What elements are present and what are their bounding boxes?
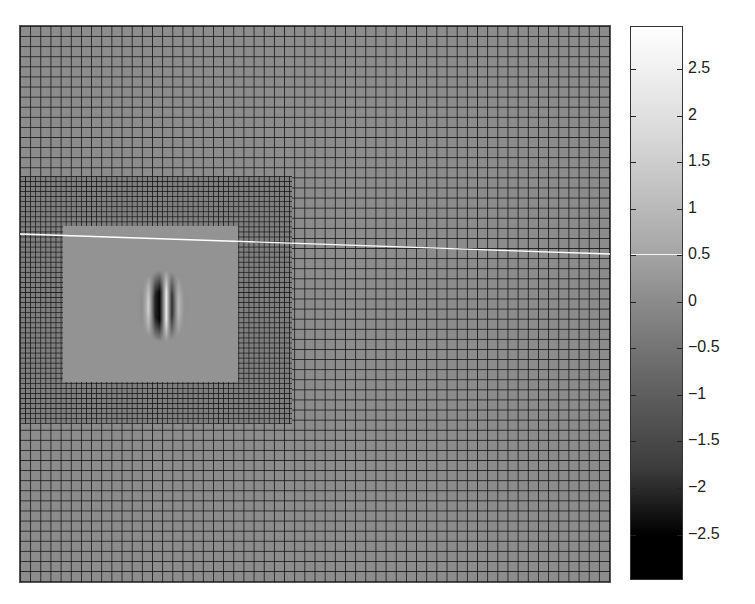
colorbar-tick-label: 0.5: [688, 246, 710, 262]
colorbar-tick: [631, 209, 636, 210]
colorbar-tick: [677, 488, 682, 489]
colorbar-tick: [631, 302, 636, 303]
colorbar-tick-label: −2.5: [688, 526, 720, 542]
mesh-plot-area: [20, 26, 610, 582]
colorbar-tick: [631, 255, 636, 256]
colorbar-tick-label: 2.5: [688, 60, 710, 76]
colorbar-tick-label: 0: [688, 293, 697, 309]
colorbar-marker: [631, 254, 682, 255]
colorbar-tick: [631, 69, 636, 70]
colorbar-tick: [677, 395, 682, 396]
colorbar-tick: [677, 441, 682, 442]
colorbar-tick-label: 1.5: [688, 153, 710, 169]
colorbar-tick: [677, 162, 682, 163]
colorbar-tick: [677, 255, 682, 256]
colorbar-tick-label: −1.5: [688, 432, 720, 448]
colorbar-tick: [677, 69, 682, 70]
colorbar-tick: [677, 535, 682, 536]
gabor-patch: [135, 270, 191, 342]
colorbar-tick: [631, 395, 636, 396]
colorbar-tick: [631, 116, 636, 117]
colorbar-tick: [677, 116, 682, 117]
colorbar-tick-label: −2: [688, 479, 706, 495]
colorbar-tick: [631, 535, 636, 536]
colorbar-tick: [631, 162, 636, 163]
colorbar-tick-label: −1: [688, 386, 706, 402]
colorbar-tick: [631, 441, 636, 442]
colorbar-tick: [677, 302, 682, 303]
colorbar-tick-label: 1: [688, 200, 697, 216]
colorbar-tick: [677, 348, 682, 349]
colorbar-tick-label: −0.5: [688, 339, 720, 355]
finest-region: [63, 226, 238, 382]
colorbar-tick: [677, 209, 682, 210]
colorbar-tick: [631, 348, 636, 349]
colorbar-tick-label: 2: [688, 107, 697, 123]
refined-grid-region: [20, 176, 292, 424]
colorbar: [630, 26, 683, 580]
colorbar-tick: [631, 488, 636, 489]
